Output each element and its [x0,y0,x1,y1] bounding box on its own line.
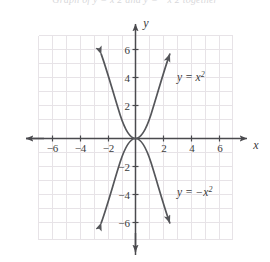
y-tick-label: −4 [118,189,130,201]
y-tick-label: 6 [125,44,131,56]
curve-label-negative-exponent: 2 [208,185,212,194]
curve-label-negative-text: y = −x [176,186,209,199]
x-axis-label: x [252,138,259,152]
x-tick-label: 6 [217,142,223,154]
x-tick-label: −6 [47,142,59,154]
curve-label-positive-text: y = x [176,71,202,84]
y-tick-label: −6 [118,217,130,229]
y-tick-label: 4 [125,72,131,84]
svg-text:y = −x2: y = −x2 [176,185,212,199]
y-tick-labels: 6 4 2 −2 −4 −6 [118,44,130,229]
curve-label-positive: y = x2 [176,70,205,84]
y-tick-label: −2 [118,161,130,173]
x-tick-label: −4 [75,142,87,154]
svg-text:y = x2: y = x2 [176,70,205,84]
curve-label-positive-exponent: 2 [201,70,205,79]
x-tick-label: −2 [103,142,115,154]
y-tick-label: 2 [125,100,131,112]
x-tick-label: 2 [161,142,167,154]
graph-svg: −6 −4 −2 2 4 6 6 4 2 −2 −4 −6 x y y = x2 [0,0,270,262]
parabola-graph-figure: −6 −4 −2 2 4 6 6 4 2 −2 −4 −6 x y y = x2 [0,0,270,262]
x-tick-label: 4 [189,142,195,154]
y-axis-label: y [142,16,149,30]
curve-label-negative: y = −x2 [176,185,212,199]
